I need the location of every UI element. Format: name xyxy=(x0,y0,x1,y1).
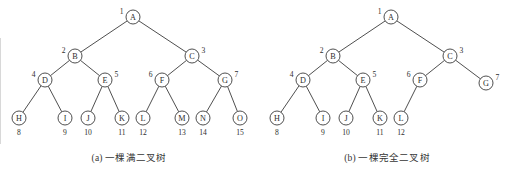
tree-node: G7 xyxy=(479,73,500,90)
tree-edge xyxy=(139,21,186,52)
panel-full-binary-tree: A1B2C3D4E5F6G7H8I9J10K11L12M13N14O15 (a)… xyxy=(0,0,258,173)
node-index-label: 12 xyxy=(139,128,147,137)
tree-edge xyxy=(338,60,357,75)
node-index-label: 10 xyxy=(84,128,92,137)
tree-node: L12 xyxy=(136,111,150,137)
tree-node: C3 xyxy=(443,46,464,63)
node-index-label: 6 xyxy=(149,70,153,79)
node-label: E xyxy=(360,76,365,85)
tree-node: J10 xyxy=(81,111,95,137)
node-index-label: 4 xyxy=(32,70,36,79)
tree-edge xyxy=(366,86,377,111)
tree-edge xyxy=(397,21,444,52)
node-label: G xyxy=(222,76,228,85)
node-label: L xyxy=(398,114,403,123)
node-index-label: 7 xyxy=(235,70,239,79)
node-index-label: 12 xyxy=(397,128,405,137)
tree-node: N14 xyxy=(196,111,210,137)
tree-node: L12 xyxy=(394,111,408,137)
tree-node: H8 xyxy=(270,111,284,137)
tree-edge xyxy=(339,21,385,52)
node-label: E xyxy=(102,76,107,85)
tree-node: C3 xyxy=(185,46,206,63)
tree-diagram-a: A1B2C3D4E5F6G7H8I9J10K11L12M13N14O15 xyxy=(0,0,258,150)
node-index-label: 2 xyxy=(320,46,324,55)
tree-node: E5 xyxy=(98,70,119,87)
tree-edge xyxy=(425,60,444,75)
node-index-label: 8 xyxy=(17,128,21,137)
panel-complete-binary-tree: A1B2C3D4E5F6G7H8I9J10K11L12 (b) 一棵完全二叉树 xyxy=(258,0,516,173)
node-label: M xyxy=(178,114,186,123)
node-index-label: 14 xyxy=(199,128,207,137)
node-label: K xyxy=(377,114,383,123)
node-label: D xyxy=(300,76,306,85)
binary-tree-figure: A1B2C3D4E5F6G7H8I9J10K11L12M13N14O15 (a)… xyxy=(0,0,516,173)
tree-node: B2 xyxy=(62,46,82,63)
node-index-label: 7 xyxy=(496,73,500,82)
tree-node: I9 xyxy=(58,111,72,137)
node-index-label: 9 xyxy=(321,128,325,137)
tree-edge xyxy=(198,60,220,76)
node-label: B xyxy=(72,52,78,61)
node-label: K xyxy=(119,114,125,123)
caption-b: (b) 一棵完全二叉树 xyxy=(258,150,516,164)
caption-a: (a) 一棵满二叉树 xyxy=(0,150,258,164)
tree-edge xyxy=(306,86,319,112)
tree-edge xyxy=(404,86,417,111)
tree-node: G7 xyxy=(218,70,239,87)
node-label: I xyxy=(64,114,67,123)
node-index-label: 2 xyxy=(62,46,66,55)
node-index-label: 13 xyxy=(178,128,186,137)
node-index-label: 3 xyxy=(202,46,206,55)
node-label: A xyxy=(130,13,136,22)
node-label: C xyxy=(447,52,453,61)
tree-edge xyxy=(456,60,481,79)
node-index-label: 1 xyxy=(120,7,124,16)
tree-edge xyxy=(308,60,327,75)
tree-edge xyxy=(108,86,119,111)
node-index-label: 1 xyxy=(378,7,382,16)
node-index-label: 5 xyxy=(115,70,119,79)
node-label: C xyxy=(189,52,195,61)
tree-node: F6 xyxy=(149,70,169,87)
tree-node: A1 xyxy=(120,7,140,24)
tree-edge xyxy=(349,86,360,111)
tree-edge xyxy=(81,21,127,52)
tree-edge xyxy=(228,87,238,112)
tree-edge xyxy=(207,86,222,112)
node-index-label: 15 xyxy=(236,128,244,137)
tree-edge xyxy=(281,86,299,112)
tree-node: O15 xyxy=(233,111,247,137)
tree-node: M13 xyxy=(175,111,189,137)
node-label: O xyxy=(237,114,243,123)
node-label: H xyxy=(16,114,22,123)
tree-node: K11 xyxy=(115,111,129,137)
tree-edge xyxy=(146,86,159,111)
tree-node: E5 xyxy=(356,70,377,87)
tree-diagram-b: A1B2C3D4E5F6G7H8I9J10K11L12 xyxy=(258,0,516,150)
node-index-label: 9 xyxy=(63,128,67,137)
tree-node: D4 xyxy=(290,70,310,87)
tree-node: K11 xyxy=(373,111,387,137)
node-index-label: 5 xyxy=(373,70,377,79)
tree-node: B2 xyxy=(320,46,340,63)
tree-node: D4 xyxy=(32,70,52,87)
tree-edge xyxy=(50,60,69,75)
node-label: F xyxy=(160,76,165,85)
node-index-label: 4 xyxy=(290,70,294,79)
tree-node: I9 xyxy=(316,111,330,137)
tree-edge xyxy=(91,86,102,111)
tree-edge xyxy=(167,60,186,75)
node-index-label: 10 xyxy=(342,128,350,137)
tree-edge xyxy=(165,86,178,112)
node-label: H xyxy=(274,114,280,123)
node-label: A xyxy=(388,13,394,22)
node-label: L xyxy=(140,114,145,123)
node-index-label: 8 xyxy=(275,128,279,137)
node-label: I xyxy=(322,114,325,123)
tree-node: H8 xyxy=(12,111,26,137)
tree-node: J10 xyxy=(339,111,353,137)
node-label: N xyxy=(200,114,206,123)
node-label: G xyxy=(483,79,489,88)
node-label: F xyxy=(418,76,423,85)
